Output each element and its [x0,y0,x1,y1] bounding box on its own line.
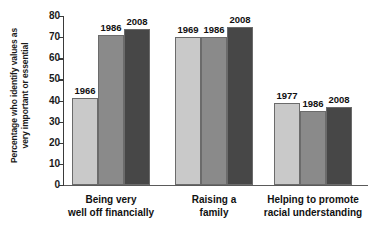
y-tick-label: 30 [49,117,60,127]
bar-value-label-2-1986: 1986 [203,25,224,35]
y-tick-label: 20 [49,138,60,148]
category-label-line2: racial understanding [264,207,362,220]
x-axis-line [59,185,368,186]
bar-1-1986 [98,35,124,185]
bar-chart: Percentage who identify values as very i… [0,0,374,235]
bar-3-2008 [326,107,352,185]
bar-value-label-2-2008: 2008 [229,15,250,25]
category-label-line1: Being very [68,194,154,207]
bar-value-label-3-1977: 1977 [276,91,297,101]
y-tick-label: 80 [49,11,60,21]
category-label-3: Helping to promoteracial understanding [264,194,362,219]
bar-value-label-2-1969: 1969 [177,25,198,35]
bar-value-label-1-1986: 1986 [100,23,121,33]
y-tick-label: 40 [49,96,60,106]
bar-3-1977 [274,103,300,185]
bar-2-2008 [227,27,253,185]
category-label-2: Raising afamily [192,194,236,219]
plot-area: 01020304050607080 1966198620081969198620… [63,16,368,186]
bar-value-label-3-2008: 2008 [328,95,349,105]
y-tick-label: 50 [49,74,60,84]
category-label-1: Being verywell off financially [68,194,154,219]
y-tick-label: 70 [49,32,60,42]
bar-value-label-1-1966: 1966 [74,86,95,96]
category-label-line2: well off financially [68,207,154,220]
bar-1-2008 [124,29,150,185]
bar-2-1986 [201,37,227,185]
y-axis-title-line1: Percentage who identify values as [10,27,20,162]
bar-3-1986 [300,111,326,185]
bar-2-1969 [175,37,201,185]
category-label-line2: family [192,207,236,220]
bar-1-1966 [72,98,98,185]
category-label-line1: Helping to promote [264,194,362,207]
y-axis-title: Percentage who identify values as very i… [0,0,40,190]
bar-value-label-1-2008: 2008 [126,17,147,27]
y-tick-label: 10 [49,159,60,169]
category-label-line1: Raising a [192,194,236,207]
y-tick-label: 60 [49,53,60,63]
bar-value-label-3-1986: 1986 [302,99,323,109]
y-tick-label: 0 [54,180,60,190]
y-axis-title-line2: very important or essential [20,27,31,162]
